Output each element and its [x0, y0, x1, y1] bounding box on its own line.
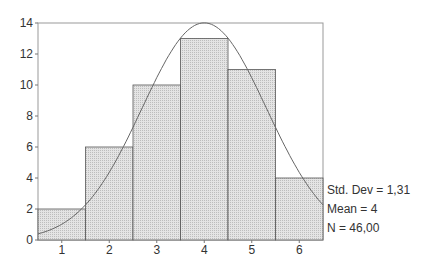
y-axis: 02468101214	[20, 16, 38, 247]
y-tick-label: 2	[26, 202, 33, 216]
histogram-bar	[276, 178, 324, 240]
y-tick-label: 14	[20, 16, 34, 30]
std-dev-label: Std. Dev = 1,31	[327, 183, 410, 197]
y-tick-label: 8	[26, 109, 33, 123]
y-tick-label: 0	[26, 233, 33, 247]
x-tick-label: 6	[296, 243, 303, 257]
y-tick-label: 4	[26, 171, 33, 185]
x-tick-label: 5	[248, 243, 255, 257]
y-tick-label: 6	[26, 140, 33, 154]
histogram-bar	[181, 39, 229, 241]
x-tick-label: 1	[58, 243, 65, 257]
x-tick-label: 2	[106, 243, 113, 257]
x-tick-label: 4	[201, 243, 208, 257]
y-tick-label: 12	[20, 47, 34, 61]
histogram-bar	[86, 147, 134, 240]
y-tick-label: 10	[20, 78, 34, 92]
x-axis: 123456	[58, 240, 303, 257]
histogram-bar	[228, 70, 276, 241]
x-tick-label: 3	[153, 243, 160, 257]
histogram-chart: 02468101214 123456 Std. Dev = 1,31 Mean …	[0, 0, 421, 270]
mean-label: Mean = 4	[327, 202, 378, 216]
n-label: N = 46,00	[327, 221, 380, 235]
histogram-bar	[133, 85, 181, 240]
